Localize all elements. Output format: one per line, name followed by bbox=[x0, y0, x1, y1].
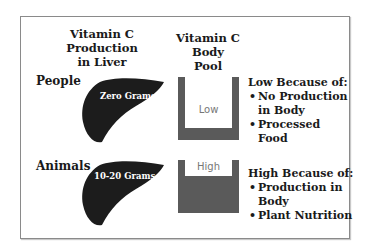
header-pool: Vitamin C Body Pool bbox=[168, 31, 248, 73]
reasons-people: Low Because of: No Production in Body Pr… bbox=[248, 76, 353, 146]
header-production-line1: Vitamin C bbox=[62, 27, 142, 41]
liver-icon-people bbox=[80, 76, 166, 146]
reason-item: No Production bbox=[248, 90, 353, 104]
header-pool-line1: Vitamin C bbox=[168, 31, 248, 45]
reason-item-cont: in Body bbox=[248, 104, 353, 118]
reason-title-people: Low Because of: bbox=[248, 76, 353, 90]
row-label-people: People bbox=[36, 74, 81, 88]
reason-title-animals: High Because of: bbox=[248, 167, 363, 181]
liver-icon-animals bbox=[80, 159, 166, 229]
header-production: Vitamin C Production in Liver bbox=[62, 27, 142, 69]
liver-amount-people: Zero Grams bbox=[100, 91, 156, 101]
header-production-line2: Production bbox=[62, 41, 142, 55]
header-production-line3: in Liver bbox=[62, 55, 142, 69]
pool-level-animals: High bbox=[185, 161, 232, 172]
reason-item: Processed Food bbox=[248, 118, 353, 146]
reason-item: Plant Nutrition bbox=[248, 209, 363, 223]
reason-item: Production in Body bbox=[248, 181, 363, 209]
header-pool-line2: Body bbox=[168, 45, 248, 59]
header-pool-line3: Pool bbox=[168, 59, 248, 73]
liver-amount-animals: 10-20 Grams bbox=[94, 171, 155, 181]
reasons-animals: High Because of: Production in Body Plan… bbox=[248, 167, 363, 223]
pool-level-people: Low bbox=[185, 104, 232, 115]
